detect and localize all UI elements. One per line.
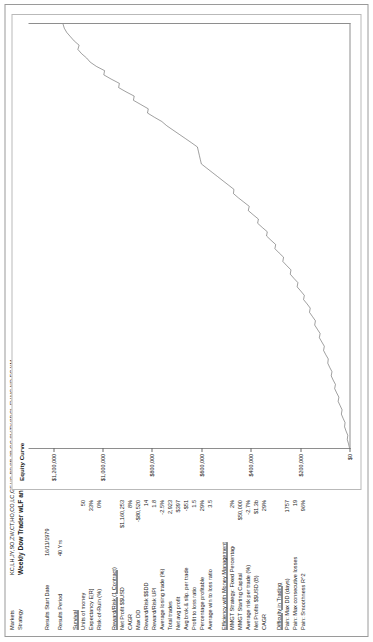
stat-row: Units of money50 <box>78 498 86 630</box>
stat-row: Expectancy E[R]33% <box>86 498 94 630</box>
stat-row: Risk-of-Ruin (%)0% <box>94 498 102 630</box>
stat-label: Total trades <box>165 546 173 630</box>
stat-row: Pain: Smoothness R^296% <box>298 498 306 630</box>
stat-row: CAGR29% <box>259 498 267 630</box>
stat-row: Max DD-$80,520 <box>133 498 141 630</box>
stat-label: Expectancy E[R] <box>86 546 94 630</box>
stat-value: $397 <box>173 498 181 546</box>
stat-row: Avg brok.& slip. per trade-$51 <box>181 498 189 630</box>
markets-label: Markets <box>7 575 15 630</box>
strategy-label: Strategy <box>15 575 24 630</box>
axis-tick <box>349 448 350 452</box>
stat-value: 96% <box>298 498 306 546</box>
axis-tick-label: $600,000 <box>198 454 204 476</box>
axis-tick-label: $1,000,000 <box>99 454 105 481</box>
stat-value: 0% <box>94 498 102 546</box>
stat-label: Profit to loss ratio <box>189 546 197 630</box>
stat-label: Reward/Risk $$DD <box>141 546 149 630</box>
stat-row: Reward/Risk $$DD14 <box>141 498 149 630</box>
equity-curve-line <box>28 24 349 448</box>
meta-label: Results Period <box>53 556 66 630</box>
axis-tick <box>151 448 152 452</box>
stat-label: MMGT Strategy: Fixed Percentage <box>227 546 235 630</box>
stat-row: Net Profit $$USD$1,160,253 <box>117 498 125 630</box>
axis-tick <box>250 448 251 452</box>
axis-tick <box>201 448 202 452</box>
stat-label: Reward/Risk UPI <box>149 546 157 630</box>
stat-value: -2.5% <box>157 498 165 546</box>
stat-row: Pain: Max consecutive losses19 <box>290 498 298 630</box>
stat-label: CAGR <box>259 546 267 630</box>
stat-group: Reward/Risk (1 Contract)Net Profit $$USD… <box>109 498 213 630</box>
stat-row: Average win to loss ratio3.5 <box>205 498 213 630</box>
axis-tick <box>53 448 54 452</box>
stat-row: CAGR8% <box>125 498 133 630</box>
stat-group-title: Survival <box>70 498 78 630</box>
stat-label: Pain: Max DD (days) <box>282 546 290 630</box>
stat-label: MMGT Starting Capital <box>235 546 243 630</box>
stat-value: -2.7% <box>243 498 251 546</box>
stat-row: MMGT Starting Capital$50,000 <box>235 498 243 630</box>
axis-tick-label: $800,000 <box>148 454 154 476</box>
stat-label: Units of money <box>78 546 86 630</box>
stat-row: Average losing trade (%)-2.5% <box>157 498 165 630</box>
stat-row: Profit to loss ratio1.5 <box>189 498 197 630</box>
stat-value: -$80,520 <box>133 498 141 546</box>
stat-row: Net Profits $$USD (B)$1.3b <box>251 498 259 630</box>
statistics-panel: SurvivalUnits of money50Expectancy E[R]3… <box>70 498 312 630</box>
stat-value: 2,923 <box>165 498 173 546</box>
equity-curve-svg <box>28 24 349 448</box>
stat-label: Max DD <box>133 546 141 630</box>
stat-value: $1,160,253 <box>117 498 125 546</box>
stat-value: 1757 <box>282 498 290 546</box>
stat-value: 33% <box>86 498 94 546</box>
axis-tick <box>300 448 301 452</box>
stat-group-title: Efficiency with Money Management <box>219 498 227 630</box>
stat-group: Difficulty in TradingPain: Max DD (days)… <box>274 498 306 630</box>
axis-tick <box>102 448 103 452</box>
stat-label: Average win to loss ratio <box>205 546 213 630</box>
stat-label: Percentage profitable <box>197 546 205 630</box>
stat-value: $1.3b <box>251 498 259 546</box>
meta-label: Results Start Date <box>40 556 53 630</box>
stat-label: Risk-of-Ruin (%) <box>94 546 102 630</box>
stat-value: 1.5 <box>189 498 197 546</box>
stat-value: 19 <box>290 498 298 546</box>
stat-value: $50,000 <box>235 498 243 546</box>
stat-label: Pain: Smoothness R^2 <box>298 546 306 630</box>
axis-tick-label: $1,200,000 <box>50 454 56 481</box>
stat-group-title: Reward/Risk (1 Contract) <box>109 498 117 630</box>
stat-value: 3.5 <box>205 498 213 546</box>
stat-label: CAGR <box>125 546 133 630</box>
stat-group: SurvivalUnits of money50Expectancy E[R]3… <box>70 498 102 630</box>
stat-row: Total trades2,923 <box>165 498 173 630</box>
report-page: Markets KC,LH,JY,SO,ZW,CT,HO,CO,LC,GF,HG… <box>0 0 373 642</box>
stat-row: Percentage profitable29% <box>197 498 205 630</box>
stat-row: Pain: Max DD (days)1757 <box>282 498 290 630</box>
stat-value: 50 <box>78 498 86 546</box>
stat-value: 1.8 <box>149 498 157 546</box>
stat-label: Net avg profit <box>173 546 181 630</box>
stat-value: 2% <box>227 498 235 546</box>
stat-row: Reward/Risk UPI1.8 <box>149 498 157 630</box>
stat-label: Net Profit $$USD <box>117 546 125 630</box>
equity-curve-chart: Equity Curve $1,200,000$1,000,000$800,00… <box>11 14 361 490</box>
stat-row: Average risk per trade (%)-2.7% <box>243 498 251 630</box>
axis-tick-label: $400,000 <box>247 454 253 476</box>
stat-label: Average losing trade (%) <box>157 546 165 630</box>
stat-label: Pain: Max consecutive losses <box>290 546 298 630</box>
stat-label: Net Profits $$USD (B) <box>251 546 259 630</box>
stat-value: 29% <box>197 498 205 546</box>
chart-title: Equity Curve <box>17 443 24 481</box>
stat-label: Average risk per trade (%) <box>243 546 251 630</box>
chart-plot-area: $1,200,000$1,000,000$800,000$600,000$400… <box>28 23 350 449</box>
stat-group: Efficiency with Money ManagementMMGT Str… <box>219 498 267 630</box>
stat-row: MMGT Strategy: Fixed Percentage2% <box>227 498 235 630</box>
axis-tick-label: $0 <box>346 454 352 460</box>
stat-value: 29% <box>259 498 267 546</box>
stat-value: -$51 <box>181 498 189 546</box>
stat-value: 14 <box>141 498 149 546</box>
stat-label: Avg brok.& slip. per trade <box>181 546 189 630</box>
stat-row: Net avg profit$397 <box>173 498 181 630</box>
stat-group-title: Difficulty in Trading <box>274 498 282 630</box>
